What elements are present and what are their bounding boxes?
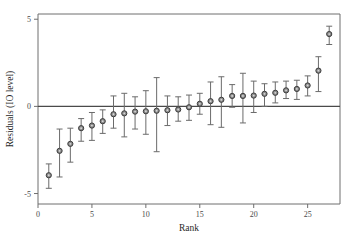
data-point-marker-center	[69, 143, 71, 145]
x-axis-title: Rank	[179, 223, 199, 233]
x-tick-label: 10	[142, 210, 150, 219]
data-point-marker-center	[220, 99, 222, 101]
data-point-marker-center	[210, 100, 212, 102]
data-point-marker-center	[48, 174, 50, 176]
x-tick-label: 25	[304, 210, 312, 219]
data-point-marker-center	[328, 33, 330, 35]
data-point-marker-center	[188, 106, 190, 108]
x-tick-label: 0	[36, 210, 40, 219]
data-point-marker-center	[199, 103, 201, 105]
data-point-marker-center	[156, 110, 158, 112]
data-point-marker-center	[91, 125, 93, 127]
chart-figure: 0510152025-505 RankResiduals (IO level)	[0, 0, 348, 236]
data-point-marker-center	[242, 95, 244, 97]
data-point-marker-center	[123, 112, 125, 114]
data-point-marker-center	[177, 109, 179, 111]
data-point-marker-center	[102, 120, 104, 122]
data-point-marker-center	[59, 150, 61, 152]
data-point-marker-center	[274, 92, 276, 94]
y-tick-label: -5	[24, 190, 31, 199]
y-tick-label: 5	[27, 15, 31, 24]
data-point-marker-center	[285, 89, 287, 91]
data-point-marker-center	[231, 95, 233, 97]
y-tick-label: 0	[27, 102, 31, 111]
y-axis-title: Residuals (IO level)	[5, 71, 16, 148]
x-tick-label: 15	[196, 210, 204, 219]
data-point-marker-center	[318, 70, 320, 72]
plot-background	[0, 0, 348, 236]
data-point-marker-center	[113, 113, 115, 115]
data-point-marker-center	[80, 127, 82, 129]
data-point-marker-center	[167, 109, 169, 111]
data-point-marker-center	[145, 110, 147, 112]
x-tick-label: 20	[250, 210, 258, 219]
x-tick-label: 5	[90, 210, 94, 219]
data-point-marker-center	[253, 95, 255, 97]
data-point-marker-center	[296, 88, 298, 90]
data-point-marker-center	[264, 93, 266, 95]
data-point-marker-center	[307, 85, 309, 87]
residuals-scatter-plot: 0510152025-505 RankResiduals (IO level)	[0, 0, 348, 236]
data-point-marker-center	[134, 111, 136, 113]
